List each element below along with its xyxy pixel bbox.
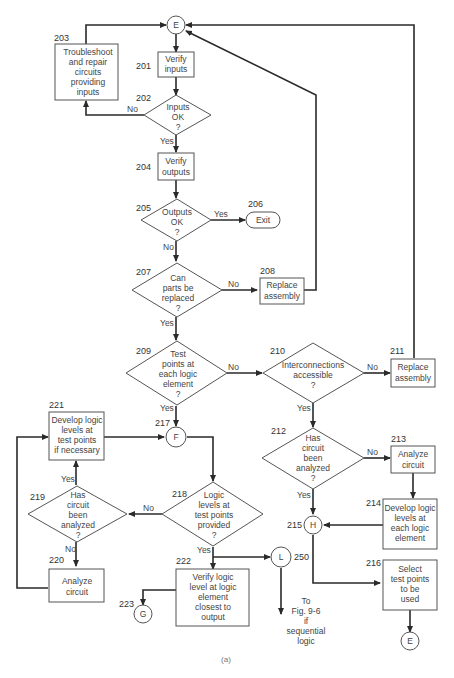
node-213-text: circuit — [402, 460, 425, 470]
node-250-number: 250 — [294, 552, 309, 562]
edge-217-to-218 — [187, 437, 213, 481]
node-219-text: been — [69, 510, 88, 520]
connector-223-g: 223 G — [119, 599, 152, 623]
connector-217-f: 217 F — [155, 418, 186, 447]
node-207-text: replaced — [162, 293, 195, 303]
edge-222-to-223 — [143, 590, 176, 605]
node-222-text: Verify logic — [192, 572, 234, 582]
node-201-verify-inputs: 201 Verify inputs — [136, 52, 194, 77]
node-209-text: element — [163, 379, 194, 389]
node-202-text: OK — [172, 112, 185, 122]
node-218-text: provided — [198, 520, 231, 530]
label-218-no: No — [143, 503, 154, 513]
node-201-number: 201 — [136, 61, 151, 71]
label-212-no: No — [367, 447, 378, 457]
node-207-can-parts-be-replaced: 207 Can parts be replaced ? — [132, 263, 222, 317]
node-212-number: 212 — [271, 426, 286, 436]
label-219-yes: Yes — [61, 474, 75, 484]
node-209-text: points at — [162, 359, 195, 369]
node-219-has-circuit-been-analyzed: 219 Has circuit been analyzed ? — [28, 486, 127, 542]
node-205-text: ? — [175, 227, 180, 237]
node-213-text: Analyze — [398, 449, 429, 459]
node-213-number: 213 — [391, 434, 406, 444]
node-222-number: 222 — [176, 556, 191, 566]
label-207-no: No — [228, 279, 239, 289]
node-218-logic-levels-provided: 218 Logic levels at test points provided… — [162, 482, 263, 546]
node-214-develop-logic-levels: 214 Develop logic levels at each logic e… — [366, 498, 437, 549]
connector-250-l: 250 L — [271, 547, 309, 567]
node-212-text: Has — [305, 433, 320, 443]
node-223-number: 223 — [119, 599, 134, 609]
node-209-text: ? — [176, 389, 181, 399]
node-207-text: Can — [170, 273, 186, 283]
node-209-test-points: 209 Test points at each logic element ? — [126, 341, 227, 405]
connector-e-bottom: E — [401, 632, 419, 650]
edge-211-to-e — [186, 25, 414, 358]
node-216-number: 216 — [366, 558, 381, 568]
label-205-no: No — [163, 242, 174, 252]
node-208-number: 208 — [260, 266, 275, 276]
node-203-text: inputs — [77, 87, 100, 97]
node-210-number: 210 — [270, 346, 285, 356]
label-202-no: No — [127, 104, 138, 114]
node-201-text: inputs — [165, 64, 188, 74]
node-218-text: Logic — [204, 490, 225, 500]
edge-203-to-e — [86, 25, 166, 44]
label-209-no: No — [228, 362, 239, 372]
node-221-develop-logic-levels: 221 Develop logic levels at test points … — [49, 400, 104, 460]
node-219-text: Has — [70, 490, 85, 500]
label-210-yes: Yes — [297, 403, 311, 413]
node-215-number: 215 — [287, 520, 302, 530]
node-214-text: each logic — [391, 523, 430, 533]
node-205-number: 205 — [136, 203, 151, 213]
node-216-text: Select — [398, 564, 422, 574]
node-203-text: providing — [71, 77, 106, 87]
node-202-inputs-ok: 202 Inputs OK ? — [136, 93, 211, 135]
label-209-yes: Yes — [160, 403, 174, 413]
node-219-text: analyzed — [61, 520, 95, 530]
node-210-text: Interconnections — [282, 360, 344, 370]
node-203-text: and repair — [69, 57, 107, 67]
node-208-replace-assembly: 208 Replace assembly — [260, 266, 304, 304]
node-203-number: 203 — [54, 33, 69, 43]
node-222-text: closest to — [195, 602, 231, 612]
label-218-yes: Yes — [197, 545, 211, 555]
node-216-text: to be — [401, 584, 420, 594]
figure-label: (a) — [221, 655, 231, 664]
node-222-text: output — [201, 612, 225, 622]
node-211-text: assembly — [395, 373, 432, 383]
node-210-text: ? — [311, 380, 316, 390]
node-206-text: Exit — [256, 215, 271, 225]
connector-e-top: E — [167, 16, 185, 34]
node-220-number: 220 — [49, 555, 64, 565]
node-202-number: 202 — [136, 93, 151, 103]
connector-215-h: 215 H — [287, 516, 322, 534]
note-text: sequential — [287, 626, 326, 636]
node-222-text: element — [198, 592, 229, 602]
node-221-text: Develop logic — [51, 415, 103, 425]
node-212-has-circuit-been-analyzed: 212 Has circuit been analyzed ? — [262, 426, 364, 489]
label-205-yes: Yes — [214, 209, 228, 219]
node-205-outputs-ok: 205 Outputs OK ? — [136, 199, 211, 241]
node-206-exit: 206 Exit — [246, 199, 280, 228]
node-204-number: 204 — [136, 162, 151, 172]
connector-h-label: H — [310, 520, 316, 530]
node-206-number: 206 — [248, 199, 263, 209]
node-212-text: been — [304, 453, 323, 463]
node-201-text: Verify — [165, 54, 187, 64]
connector-l-label: L — [279, 552, 284, 562]
node-207-text: parts be — [163, 283, 194, 293]
node-203-text: circuits — [75, 67, 101, 77]
node-204-text: outputs — [162, 167, 190, 177]
note-text: Fig. 9-6 — [292, 606, 321, 616]
node-207-text: ? — [176, 303, 181, 313]
flowchart: E 201 Verify inputs 202 Inputs OK ? 203 … — [0, 0, 454, 678]
label-219-no: No — [65, 544, 76, 554]
connector-f-label: F — [173, 432, 178, 442]
connector-e-top-label: E — [173, 20, 179, 30]
node-218-text: ? — [212, 530, 217, 540]
node-204-text: Verify — [165, 156, 187, 166]
label-212-yes: Yes — [297, 490, 311, 500]
node-216-text: used — [401, 594, 420, 604]
node-214-number: 214 — [366, 498, 381, 508]
